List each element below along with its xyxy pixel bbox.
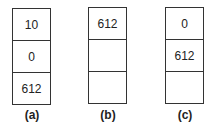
stack-b: 612 — [88, 7, 127, 104]
stack-cell: 612 — [89, 8, 126, 40]
stack-cell: 612 — [166, 40, 203, 72]
stack-cell: 0 — [166, 8, 203, 40]
stack-c: 0 612 — [165, 7, 204, 104]
stack-cell — [89, 40, 126, 72]
stack-cell: 0 — [13, 41, 50, 73]
stack-cell: 10 — [13, 9, 50, 41]
caption-b: (b) — [88, 108, 128, 122]
stack-cell — [89, 72, 126, 104]
stack-cell — [166, 72, 203, 104]
stack-cell: 612 — [13, 73, 50, 105]
caption-a: (a) — [12, 108, 52, 122]
caption-c: (c) — [165, 108, 205, 122]
stack-a: 10 0 612 — [12, 8, 51, 105]
